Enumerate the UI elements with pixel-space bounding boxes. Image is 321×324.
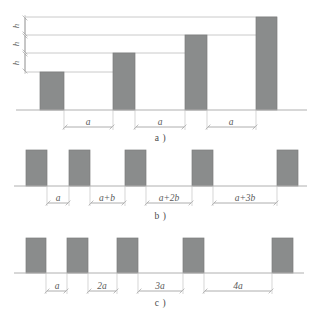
gap-label-b3: a+2b: [159, 193, 180, 203]
bar: [113, 53, 135, 110]
bar: [192, 150, 213, 186]
gap-label-b1: a: [56, 193, 61, 203]
panel-b-bars: [26, 150, 298, 186]
bar: [26, 238, 46, 273]
bar: [256, 17, 277, 110]
gap-label-c2: 2a: [97, 281, 107, 291]
height-label-h2: h: [11, 41, 21, 46]
panel-a-caption: a ): [0, 133, 321, 143]
bar: [117, 238, 138, 273]
gap-label-b4: a+3b: [235, 193, 256, 203]
bar: [26, 150, 47, 186]
height-label-h3: h: [11, 60, 21, 65]
panel-a-bars: [40, 17, 277, 110]
gap-label-c3: 3a: [154, 281, 165, 291]
gap-label-a2: a: [158, 117, 163, 127]
panel-c: a 2a 3a 4a: [14, 238, 304, 294]
panel-a-reference-lines: [25, 15, 277, 74]
figure-root: h h h a a a: [0, 0, 321, 324]
bar: [185, 35, 207, 110]
bar: [69, 150, 90, 186]
panel-c-caption: c ): [0, 298, 321, 308]
gap-label-c1: a: [55, 281, 60, 291]
panel-b: a a+b a+2b a+3b: [14, 150, 307, 206]
height-label-h1: h: [11, 23, 21, 28]
gap-label-c4: 4a: [233, 281, 243, 291]
bar: [277, 150, 298, 186]
bar: [125, 150, 146, 186]
gap-label-a3: a: [229, 117, 234, 127]
gap-label-a1: a: [86, 117, 91, 127]
gap-label-b2: a+b: [99, 193, 115, 203]
bar: [67, 238, 88, 273]
panel-b-caption: b ): [0, 211, 321, 221]
bar: [183, 238, 204, 273]
bar: [272, 238, 293, 273]
panel-a: h h h a a a: [11, 15, 307, 130]
bar: [40, 72, 64, 110]
panel-c-bars: [26, 238, 293, 273]
